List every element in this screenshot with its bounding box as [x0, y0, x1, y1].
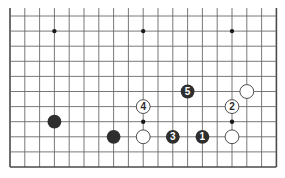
move-number: 5	[185, 86, 191, 97]
white-stone-2: 2	[225, 100, 239, 114]
star-point	[141, 120, 145, 124]
star-point	[230, 29, 234, 33]
star-point	[230, 120, 234, 124]
stones: 12345	[48, 85, 254, 144]
move-number: 2	[229, 101, 235, 112]
stone-disc	[107, 130, 121, 144]
go-board-diagram: 12345	[0, 0, 285, 178]
move-number: 1	[200, 131, 206, 142]
white-stone	[240, 85, 254, 99]
star-point	[52, 29, 56, 33]
go-board: 12345	[0, 0, 285, 178]
white-stone-4: 4	[136, 100, 150, 114]
star-point	[141, 29, 145, 33]
black-stone	[107, 130, 121, 144]
move-number: 4	[140, 101, 146, 112]
move-number: 3	[170, 131, 176, 142]
white-stone	[225, 130, 239, 144]
stone-disc	[225, 130, 239, 144]
black-stone	[48, 115, 62, 129]
stone-disc	[48, 115, 62, 129]
stone-disc	[240, 85, 254, 99]
black-stone-5: 5	[181, 85, 195, 99]
black-stone-1: 1	[196, 130, 210, 144]
black-stone-3: 3	[166, 130, 180, 144]
stone-disc	[136, 130, 150, 144]
white-stone	[136, 130, 150, 144]
